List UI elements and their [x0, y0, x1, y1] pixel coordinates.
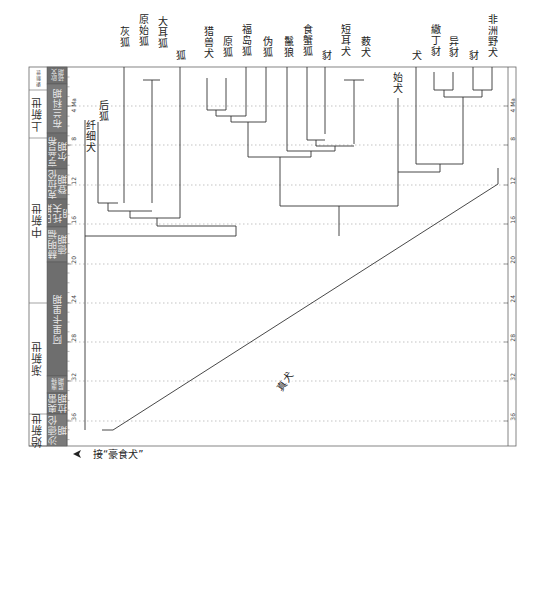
taxon-label: 猎兽犬 — [202, 26, 212, 59]
tick-label-right: 24 — [509, 295, 516, 303]
tick-label-left: 20 — [70, 256, 77, 264]
epoch-label: 中新世 — [31, 138, 45, 303]
taxon-label: 大耳狐 — [156, 16, 166, 49]
clade-label: 纤细犬 — [84, 120, 94, 153]
tick-label-left: 4 Ma — [70, 98, 77, 113]
taxon-label: 原狐 — [221, 36, 231, 58]
tick-label-left: 32 — [70, 373, 77, 381]
stage-label: 赫明福德期 — [48, 227, 67, 262]
taxon-label: 豺 — [320, 50, 330, 61]
stage-label: 惠特尼期 — [48, 376, 67, 393]
stage-label: 阿里卡里期 — [48, 262, 67, 376]
taxon-label: 非洲野犬 — [486, 14, 496, 58]
canid-phylogeny-figure: 更新世上新世中新世渐新世始新世欧文顿期布兰科期亨普希尔期克拉伦登期巴斯托夫期赫明… — [0, 0, 539, 608]
taxon-label: 薮犬 — [359, 36, 369, 58]
tick-label-right: 16 — [509, 216, 516, 224]
tick-label-left: 28 — [70, 334, 77, 342]
arrow-icon — [73, 450, 81, 458]
taxon-label: 狐 — [174, 50, 184, 61]
tick-label-left: 12 — [70, 177, 77, 185]
stage-label: 布兰科期 — [48, 84, 67, 133]
taxon-label: 原始狐 — [137, 14, 147, 47]
tick-label-right: 32 — [509, 373, 516, 381]
epoch-label: 上新世 — [31, 90, 45, 138]
stage-label: 欧文顿期 — [48, 67, 67, 84]
taxon-label: 豺 — [467, 50, 477, 61]
tick-label-right: 20 — [509, 256, 516, 264]
taxon-label: 食蟹狐 — [301, 24, 311, 57]
taxon-label: 福岛狐 — [240, 24, 250, 57]
taxon-label: 繖丁豺 — [429, 24, 439, 57]
taxon-label: 犬 — [410, 50, 420, 61]
stage-label: 沙德伦期 — [48, 414, 67, 446]
tick-label-right: 28 — [509, 334, 516, 342]
stage-label: 克拉伦登期 — [48, 169, 67, 199]
tick-label-right: 8 — [509, 137, 516, 141]
taxon-label: 灰狐 — [118, 26, 128, 48]
stage-label: 奥雷拉期 — [48, 393, 67, 414]
stage-label: 巴斯托夫期 — [48, 199, 67, 227]
tick-label-left: 36 — [70, 413, 77, 421]
tick-label-right: 36 — [509, 413, 516, 421]
taxon-label: 鬣狼 — [282, 36, 292, 58]
clade-label: 后狐 — [97, 100, 107, 122]
taxon-label: 伪狐 — [261, 36, 271, 58]
taxon-label: 短耳犬 — [339, 24, 349, 57]
tick-label-right: 4 Ma — [509, 98, 516, 113]
phylogeny-svg — [0, 0, 539, 608]
tick-label-left: 24 — [70, 295, 77, 303]
figure-frame — [29, 67, 516, 446]
tick-label-right: 12 — [509, 177, 516, 185]
tick-label-left: 16 — [70, 216, 77, 224]
epoch-label: 更新世 — [31, 67, 45, 90]
epoch-label: 渐新世 — [31, 303, 45, 414]
tick-label-left: 8 — [70, 137, 77, 141]
branch-segment — [113, 184, 498, 430]
epoch-label: 始新世 — [31, 414, 45, 446]
annotation-label: 接“豪食犬” — [93, 446, 143, 461]
taxon-label: 异豺 — [447, 36, 457, 58]
taxon-label: 始犬 — [391, 72, 401, 94]
stage-label: 亨普希尔期 — [48, 133, 67, 169]
